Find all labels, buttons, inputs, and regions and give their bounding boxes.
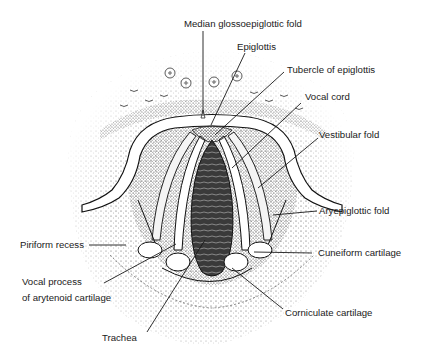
cuneiform-left [138, 242, 162, 258]
label-piriform-recess: Piriform recess [20, 239, 84, 250]
label-epiglottis: Epiglottis [237, 41, 276, 52]
label-vocal-cord: Vocal cord [305, 91, 350, 102]
label-vocal-process-line1: Vocal process [22, 276, 82, 287]
label-trachea: Trachea [102, 332, 137, 343]
label-vestibular-fold: Vestibular fold [319, 129, 379, 140]
label-tubercle-of-epiglottis: Tubercle of epiglottis [287, 64, 375, 75]
corniculate-left [166, 253, 190, 271]
label-corniculate-cartilage: Corniculate cartilage [285, 307, 372, 318]
cuneiform-right [248, 242, 272, 258]
label-vocal-process-line2: of arytenoid cartilage [22, 292, 111, 303]
label-cuneiform-cartilage: Cuneiform cartilage [318, 247, 401, 258]
larynx-diagram: Median glossoepiglottic fold Epiglottis … [0, 0, 422, 357]
corniculate-right [224, 253, 248, 271]
larynx-illustration [0, 0, 422, 357]
label-median-glossoepiglottic-fold: Median glossoepiglottic fold [184, 18, 302, 29]
label-aryepiglottic-fold: Aryepiglottic fold [319, 205, 389, 216]
